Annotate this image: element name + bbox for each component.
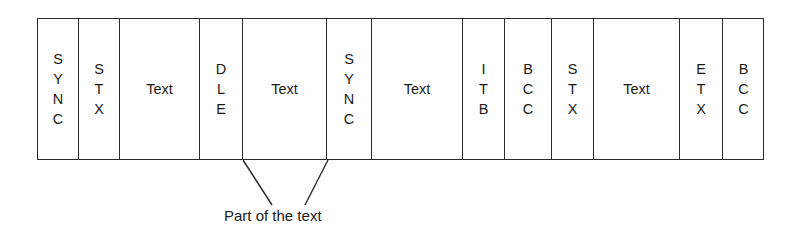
field-label-etx-1: E T X bbox=[696, 59, 706, 119]
field-cell-bcc-1: B C C bbox=[505, 19, 552, 159]
field-label-bcc-2: B C C bbox=[738, 59, 748, 119]
field-label-sync-1: S Y N C bbox=[53, 49, 63, 129]
field-label-sync-2: S Y N C bbox=[344, 49, 354, 129]
field-label-text-4: Text bbox=[623, 81, 650, 98]
field-cell-etx-1: E T X bbox=[680, 19, 723, 159]
field-label-stx-2: S T X bbox=[568, 59, 578, 119]
field-label-text-2: Text bbox=[271, 81, 298, 98]
annotation-label: Part of the text bbox=[224, 207, 322, 225]
frame-structure-diagram: S Y N CS T XTextD L ETextS Y N CTextI T … bbox=[0, 0, 796, 243]
field-cell-stx-2: S T X bbox=[552, 19, 594, 159]
field-cell-stx-1: S T X bbox=[79, 19, 120, 159]
field-cell-text-1: Text bbox=[120, 19, 200, 159]
field-label-text-1: Text bbox=[146, 81, 173, 98]
field-cell-text-3: Text bbox=[372, 19, 463, 159]
field-cell-itb-1: I T B bbox=[463, 19, 505, 159]
field-cell-dle-1: D L E bbox=[200, 19, 243, 159]
leader-to-dle bbox=[243, 160, 272, 205]
field-cell-text-2: Text bbox=[243, 19, 327, 159]
leader-to-sync bbox=[305, 160, 328, 205]
field-cell-sync-2: S Y N C bbox=[327, 19, 372, 159]
field-label-text-3: Text bbox=[404, 81, 431, 98]
field-cell-bcc-2: B C C bbox=[723, 19, 764, 159]
frame-strip: S Y N CS T XTextD L ETextS Y N CTextI T … bbox=[37, 18, 764, 160]
field-label-itb-1: I T B bbox=[479, 59, 489, 119]
field-label-stx-1: S T X bbox=[94, 59, 104, 119]
field-label-dle-1: D L E bbox=[216, 59, 226, 119]
field-label-bcc-1: B C C bbox=[523, 59, 533, 119]
field-cell-text-4: Text bbox=[594, 19, 680, 159]
field-cell-sync-1: S Y N C bbox=[38, 19, 79, 159]
